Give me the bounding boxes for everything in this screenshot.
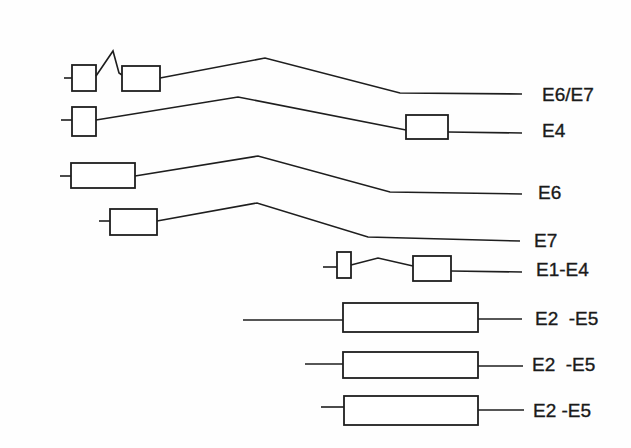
row-6-exon <box>343 303 478 332</box>
row-8-label: E2 -E5 <box>533 400 591 421</box>
row-2-intron-line <box>96 97 406 130</box>
row-1-label: E6/E7 <box>542 84 594 105</box>
row-e2-e5-b: E2 -E5 <box>305 352 595 378</box>
row-4-exon <box>110 209 157 235</box>
row-e2-e5-a: E2 -E5 <box>243 303 598 332</box>
row-5-exon-2 <box>413 256 451 281</box>
row-7-exon <box>343 352 478 378</box>
row-6-label: E2 -E5 <box>535 308 598 329</box>
row-7-label: E2 -E5 <box>532 354 595 375</box>
diagram-canvas: E6/E7 E4 E6 E7 <box>0 0 631 448</box>
row-2-tail <box>448 132 522 133</box>
row-5-tail <box>451 271 522 272</box>
row-8-exon <box>344 396 478 425</box>
row-5-label: E1-E4 <box>536 259 589 280</box>
row-e4: E4 <box>61 97 566 141</box>
row-3-label: E6 <box>538 182 561 203</box>
row-1-exon-1 <box>72 65 96 91</box>
row-e1-e4: E1-E4 <box>323 252 589 281</box>
row-5-exon-1 <box>337 252 351 278</box>
row-e6-e7: E6/E7 <box>64 51 594 105</box>
row-e2-e5-c: E2 -E5 <box>321 396 591 425</box>
row-4-intron-line <box>157 203 520 241</box>
exon-structure-diagram: E6/E7 E4 E6 E7 <box>0 0 631 448</box>
row-4-label: E7 <box>534 230 557 251</box>
row-3-exon <box>71 163 135 188</box>
row-1-splice-junction <box>96 51 122 76</box>
row-e6: E6 <box>60 156 561 203</box>
row-5-splice-junction <box>351 258 413 266</box>
row-1-exon-2 <box>122 66 160 91</box>
row-2-exon-2 <box>406 115 448 139</box>
row-3-intron-line <box>135 156 522 194</box>
row-2-label: E4 <box>542 120 566 141</box>
row-e7: E7 <box>99 203 557 251</box>
row-1-intron-line <box>160 58 522 94</box>
row-2-exon-1 <box>72 107 96 136</box>
